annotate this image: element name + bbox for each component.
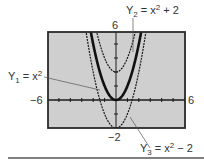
y1-equation-label: Y1 = x2 [8,69,43,85]
y3-equation-label: Y3 = x2 − 2 [140,141,193,157]
ymax-label: 6 [112,19,118,31]
parabola-graph-figure: 6 −2 −6 6 Y2 = x2 + 2 Y1 = x2 Y3 = x2 − … [0,0,204,167]
y2-equation-label: Y2 = x2 + 2 [126,3,179,19]
xmax-label: 6 [188,94,194,106]
ymin-label: −2 [108,131,121,143]
xmin-label: −6 [30,94,43,106]
